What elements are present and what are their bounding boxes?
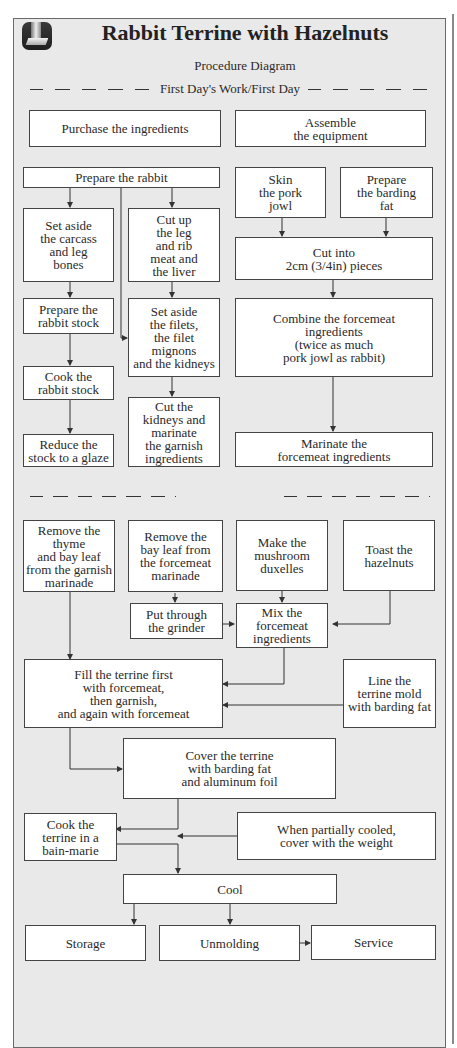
- step-fill-terrine: Fill the terrine first with forcemeat, t…: [24, 659, 223, 728]
- step-reduce-stock: Reduce the stock to a glaze: [23, 434, 114, 467]
- step-combine-forcemeat: Combine the forcemeat ingredients (twice…: [235, 298, 433, 377]
- step-set-aside-carcass: Set aside the carcass and leg bones: [23, 208, 114, 282]
- step-cover-terrine: Cover the terrine with barding fat and a…: [123, 738, 336, 799]
- step-skin-pork-jowl: Skin the pork jowl: [235, 167, 326, 218]
- step-make-duxelles: Make the mushroom duxelles: [236, 520, 328, 591]
- step-mix-forcemeat: Mix the forcemeat ingredients: [236, 603, 328, 648]
- step-cut-into-pieces: Cut into 2cm (3/4in) pieces: [235, 237, 433, 280]
- step-service: Service: [311, 925, 436, 960]
- step-prepare-stock: Prepare the rabbit stock: [23, 298, 114, 334]
- step-cut-kidneys: Cut the kidneys and marinate the garnish…: [128, 397, 220, 467]
- step-cool: Cool: [123, 874, 337, 904]
- step-prepare-barding-fat: Prepare the barding fat: [340, 167, 433, 218]
- step-prepare-rabbit: Prepare the rabbit: [23, 167, 220, 188]
- step-marinate-forcemeat: Marinate the forcemeat ingredients: [235, 432, 433, 467]
- step-purchase-ingredients: Purchase the ingredients: [29, 110, 221, 147]
- step-assemble-equipment: Assemble the equipment: [235, 110, 426, 147]
- step-remove-bay-leaf: Remove the bay leaf from the forcemeat m…: [128, 520, 223, 592]
- step-storage: Storage: [25, 925, 146, 961]
- step-line-terrine-mold: Line the terrine mold with barding fat: [343, 659, 436, 728]
- step-cook-stock: Cook the rabbit stock: [23, 366, 114, 400]
- step-cut-up-leg: Cut up the leg and rib meat and the live…: [128, 208, 220, 282]
- step-cover-with-weight: When partially cooled, cover with the we…: [237, 812, 436, 860]
- step-cook-bain-marie: Cook the terrine in a bain-marie: [24, 813, 117, 861]
- step-put-through-grinder: Put through the grinder: [130, 603, 223, 639]
- step-set-aside-filets: Set aside the filets, the filet mignons …: [128, 298, 220, 377]
- step-remove-thyme: Remove the thyme and bay leaf from the g…: [23, 520, 115, 592]
- step-unmolding: Unmolding: [159, 925, 300, 961]
- step-toast-hazelnuts: Toast the hazelnuts: [343, 520, 435, 591]
